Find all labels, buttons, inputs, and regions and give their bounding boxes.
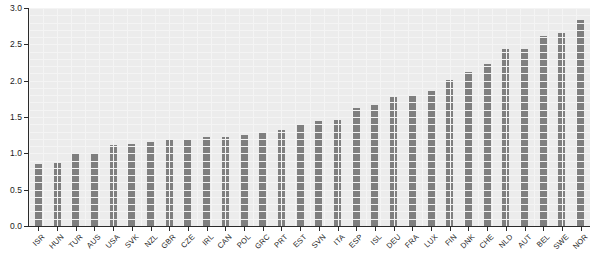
x-axis-tick-label: TUR	[67, 233, 84, 250]
bar	[577, 20, 584, 226]
x-axis-tick-mark	[412, 227, 413, 231]
x-axis-tick-mark	[525, 227, 526, 231]
grid-line-vertical	[464, 8, 465, 226]
grid-line-vertical	[169, 8, 170, 226]
grid-line-vertical	[71, 8, 72, 226]
grid-line-vertical	[155, 8, 156, 226]
x-axis-tick-label: DNK	[460, 233, 477, 250]
x-axis-tick-mark	[356, 227, 357, 231]
x-axis-tick-mark	[57, 227, 58, 231]
x-axis-tick-label: LUX	[423, 233, 439, 249]
bar-chart: 0.00.51.01.52.02.53.0 ISRHUNTURAUSUSASVK…	[0, 0, 597, 260]
y-axis-tick-label: 2.0	[10, 76, 22, 85]
grid-line-vertical	[197, 8, 198, 226]
y-axis-tick-mark	[24, 226, 29, 227]
x-axis-tick-label: POL	[236, 233, 253, 250]
grid-line-vertical	[295, 8, 296, 226]
x-axis-tick-mark	[468, 227, 469, 231]
y-axis: 0.00.51.01.52.02.53.0	[0, 0, 28, 260]
grid-line-vertical	[436, 8, 437, 226]
x-axis-tick-mark	[375, 227, 376, 231]
x-axis-tick-label: ISL	[369, 233, 383, 247]
x-axis-tick-label: AUT	[516, 233, 533, 250]
x-axis-tick-mark	[113, 227, 114, 231]
x-axis-tick-mark	[431, 227, 432, 231]
x-axis-tick-label: GBR	[160, 233, 177, 250]
bar	[315, 121, 322, 226]
x-axis-tick-mark	[244, 227, 245, 231]
y-axis-tick-label: 1.5	[10, 113, 22, 122]
y-axis-tick-label: 2.5	[10, 40, 22, 49]
x-axis-tick-mark	[132, 227, 133, 231]
grid-line-vertical	[422, 8, 423, 226]
x-axis-tick-label: CZE	[180, 233, 197, 250]
grid-line-vertical	[534, 8, 535, 226]
grid-line-vertical	[338, 8, 339, 226]
x-axis-tick-label: BEL	[536, 233, 552, 249]
x-axis-tick-mark	[188, 227, 189, 231]
bar	[147, 142, 154, 226]
x-axis-tick-mark	[94, 227, 95, 231]
y-axis-tick-label: 0.5	[10, 185, 22, 194]
x-axis-tick-label: PRT	[273, 233, 289, 249]
x-axis-tick-label: SVK	[124, 233, 141, 250]
x-axis-tick-label: AUS	[86, 233, 103, 250]
grid-line-vertical	[352, 8, 353, 226]
y-axis-tick-label: 0.0	[10, 222, 22, 231]
grid-line-vertical	[127, 8, 128, 226]
x-axis-tick-label: GRC	[253, 233, 271, 251]
grid-line-vertical	[183, 8, 184, 226]
grid-line-vertical	[394, 8, 395, 226]
grid-line-vertical	[492, 8, 493, 226]
x-axis-tick-mark	[562, 227, 563, 231]
x-axis-tick-mark	[38, 227, 39, 231]
y-axis-tick-mark	[24, 44, 29, 45]
x-axis-tick-mark	[76, 227, 77, 231]
grid-line-vertical	[253, 8, 254, 226]
x-axis-tick-label: NLD	[498, 233, 515, 250]
x-axis-tick-label: FIN	[444, 233, 458, 247]
x-axis-tick-mark	[225, 227, 226, 231]
grid-line-vertical	[141, 8, 142, 226]
grid-line-vertical	[57, 8, 58, 226]
grid-line-vertical	[478, 8, 479, 226]
x-axis-tick-label: CHE	[478, 233, 495, 250]
x-axis-tick-mark	[300, 227, 301, 231]
x-axis-tick-label: SWE	[552, 233, 570, 251]
bar	[35, 164, 42, 226]
x-axis-tick-label: ESP	[348, 233, 365, 250]
y-axis-tick-label: 3.0	[10, 4, 22, 13]
grid-line-vertical	[211, 8, 212, 226]
plot-area	[29, 8, 590, 226]
grid-line-vertical	[29, 8, 30, 226]
grid-line-vertical	[562, 8, 563, 226]
grid-line-vertical	[520, 8, 521, 226]
bar	[521, 49, 528, 226]
grid-line-vertical	[366, 8, 367, 226]
y-axis-tick-mark	[24, 8, 29, 9]
bar	[128, 144, 135, 226]
x-axis-tick-label: ITA	[332, 233, 346, 247]
x-axis-tick-mark	[151, 227, 152, 231]
x-axis-tick-label: EST	[292, 233, 308, 249]
bar	[353, 108, 360, 226]
x-axis-tick-mark	[506, 227, 507, 231]
x-axis-tick-mark	[338, 227, 339, 231]
grid-line-vertical	[548, 8, 549, 226]
x-axis-tick-mark	[319, 227, 320, 231]
grid-line-vertical	[43, 8, 44, 226]
grid-line-vertical	[380, 8, 381, 226]
x-axis-tick-label: SVN	[310, 233, 327, 250]
x-axis-tick-mark	[207, 227, 208, 231]
y-axis-tick-mark	[24, 190, 29, 191]
grid-line-vertical	[113, 8, 114, 226]
x-axis-tick-mark	[487, 227, 488, 231]
y-axis-tick-mark	[24, 117, 29, 118]
bar	[428, 91, 435, 226]
x-axis-tick-mark	[281, 227, 282, 231]
y-axis-tick-mark	[24, 153, 29, 154]
grid-line-vertical	[267, 8, 268, 226]
x-axis-tick-mark	[263, 227, 264, 231]
grid-line-vertical	[225, 8, 226, 226]
grid-line-vertical	[324, 8, 325, 226]
